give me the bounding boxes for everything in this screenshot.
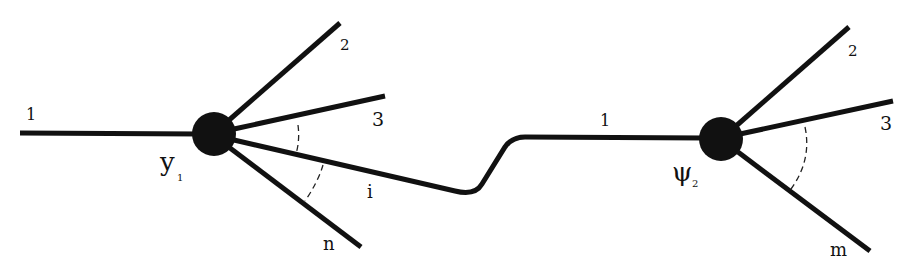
v2-leg-3 [740, 101, 893, 134]
v1-leg-3 [234, 96, 385, 129]
v1-name-label: y [159, 147, 175, 177]
v1-leg-2 [228, 23, 340, 121]
v2-leg2-label: 2 [848, 42, 858, 60]
v1-angle-arc-upper [296, 125, 299, 154]
v1-leg1-label: 1 [26, 105, 36, 124]
v1-leg-1 [20, 133, 200, 134]
vertex-psi2 [699, 117, 743, 161]
v1-leg2-label: 2 [340, 36, 350, 54]
v2-leg1-label: 1 [600, 111, 610, 130]
v1-sub-label: 1 [177, 172, 183, 183]
connecting-edge [234, 137, 705, 192]
v1-angle-arc-lower [305, 165, 323, 201]
v2-angle-arc [791, 127, 807, 189]
v1-leg3-label: 3 [372, 108, 384, 130]
vertex-y1 [192, 112, 236, 156]
v1-legi-label: i [367, 181, 373, 202]
v2-sub-label: 2 [692, 178, 698, 189]
v2-leg-2 [736, 27, 849, 126]
v1-legn-label: n [323, 233, 335, 254]
v2-leg3-label: 3 [880, 112, 892, 134]
v2-legm-label: m [830, 239, 847, 260]
v2-name-label: ψ [672, 157, 692, 187]
diagram-canvas: 1 2 3 i n y 1 1 2 3 m ψ 2 [0, 0, 914, 272]
v2-leg-m [738, 152, 870, 251]
